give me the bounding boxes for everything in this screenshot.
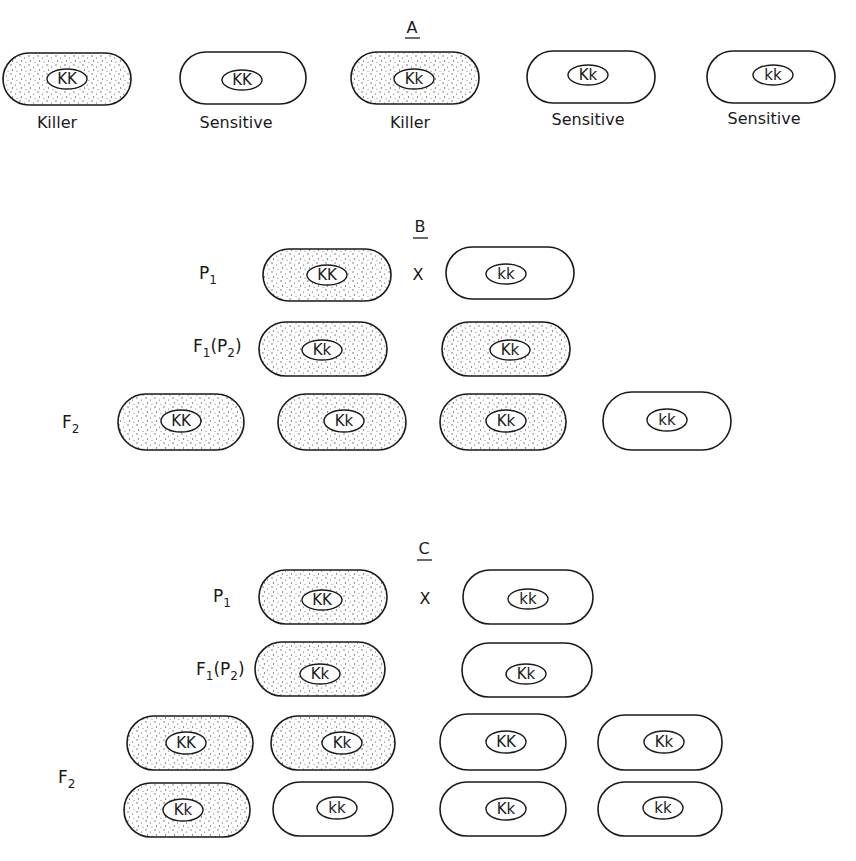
section-c: C P1 KK X kk F1(P2) Kk Kk F2 [58, 539, 722, 837]
cell-a5: kk Sensitive [707, 51, 835, 128]
cell-b-f1-1: Kk [259, 322, 387, 376]
cross-symbol: X [413, 265, 424, 284]
genotype: Kk [655, 733, 674, 751]
genotype: KK [57, 70, 78, 88]
genotype: KK [176, 734, 197, 752]
generation-label-p1: P1 [213, 586, 231, 610]
phenotype-label: Sensitive [200, 113, 273, 132]
cell-c-f2-5: Kk [124, 783, 250, 837]
cross-symbol: X [420, 589, 431, 608]
cell-b-f2-2: Kk [278, 394, 406, 450]
genotype: Kk [333, 734, 352, 752]
cell-c-f2-7: Kk [440, 782, 566, 836]
section-a: A KK Killer KK Sensitive Kk Killer Kk Se… [3, 18, 835, 132]
cell-b-f1-2: Kk [442, 322, 570, 376]
cell-c-f2-8: kk [598, 782, 722, 836]
genotype: kk [328, 799, 346, 817]
section-a-label: A [407, 18, 418, 37]
cell-a2: KK Sensitive [180, 52, 306, 132]
section-b-label: B [415, 217, 426, 236]
genotype: Kk [497, 412, 516, 430]
cell-c-f2-2: Kk [271, 716, 395, 770]
generation-label-p1: P1 [199, 263, 217, 287]
cell-c-f1-1: Kk [255, 642, 385, 696]
section-c-label: C [418, 539, 429, 558]
cell-a4: Kk Sensitive [527, 51, 655, 129]
generation-label-f1: F1(P2) [196, 659, 245, 683]
killer-paramecium-genetics-diagram: A KK Killer KK Sensitive Kk Killer Kk Se… [0, 0, 856, 861]
phenotype-label: Killer [37, 113, 78, 132]
genotype: KK [171, 412, 192, 430]
cell-c-f2-6: kk [273, 782, 393, 836]
cell-c-p1-1: KK [259, 570, 387, 624]
cell-a3: Kk Killer [351, 52, 479, 132]
cell-b-p1-1: KK [263, 249, 391, 301]
cell-c-f1-2: Kk [462, 643, 592, 697]
generation-label-f2: F2 [58, 767, 75, 791]
phenotype-label: Sensitive [552, 110, 625, 129]
generation-label-f2: F2 [62, 412, 79, 436]
cell-c-f2-3: KK [440, 714, 566, 770]
cell-b-f2-1: KK [118, 394, 244, 450]
genotype: kk [764, 66, 782, 84]
cell-b-f2-4: kk [603, 392, 731, 450]
genotype: Kk [501, 341, 520, 359]
cell-c-f2-4: Kk [598, 715, 722, 770]
cell-b-p1-2: kk [446, 247, 574, 299]
genotype: Kk [313, 341, 332, 359]
generation-label-f1: F1(P2) [193, 336, 242, 360]
cell-b-f2-3: Kk [440, 394, 566, 450]
genotype: Kk [497, 800, 516, 818]
genotype: Kk [174, 801, 193, 819]
cell-c-f2-1: KK [127, 716, 253, 770]
genotype: KK [496, 733, 517, 751]
genotype: kk [519, 590, 537, 608]
genotype: kk [497, 265, 515, 283]
cell-c-p1-2: kk [463, 570, 593, 624]
genotype: Kk [311, 665, 330, 683]
genotype: KK [317, 266, 338, 284]
genotype: Kk [579, 66, 598, 84]
section-b: B P1 KK X kk F1(P2) Kk Kk F2 [62, 217, 731, 450]
genotype: Kk [335, 412, 354, 430]
genotype: Kk [405, 70, 424, 88]
genotype: Kk [517, 665, 536, 683]
phenotype-label: Sensitive [728, 109, 801, 128]
phenotype-label: Killer [390, 113, 431, 132]
genotype: kk [658, 411, 676, 429]
genotype: kk [654, 799, 672, 817]
genotype: KK [232, 71, 253, 89]
cell-a1: KK Killer [3, 53, 131, 132]
genotype: KK [312, 591, 333, 609]
